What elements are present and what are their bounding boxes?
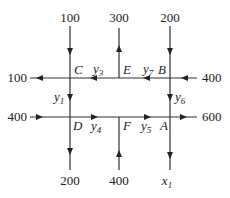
arrow-up-icon (116, 150, 122, 157)
flow-top-middle: 300 (109, 10, 129, 25)
arrow-left-icon (181, 75, 188, 81)
flow-left-top: 100 (8, 70, 28, 85)
node-c: C (74, 62, 83, 77)
arrow-right-icon (180, 114, 187, 120)
node-d: D (72, 118, 83, 133)
flow-y6: y6 (173, 89, 186, 106)
arrow-down-icon (67, 148, 73, 155)
flow-left-bottom: 400 (8, 109, 28, 124)
flow-y4: y4 (89, 118, 102, 135)
arrow-down-icon (167, 94, 173, 101)
flow-y1: y1 (52, 89, 64, 106)
flow-y7: y7 (141, 61, 154, 78)
arrow-down-icon (167, 48, 173, 55)
node-f: F (122, 118, 132, 133)
flow-network-diagram: 100 300 200 100 400 400 600 200 400 x1 C… (0, 0, 230, 198)
arrow-left-icon (36, 75, 43, 81)
flow-top-left: 100 (60, 10, 80, 25)
node-b: B (158, 62, 166, 77)
flow-bottom-left: 200 (60, 173, 80, 188)
flow-top-right: 200 (160, 10, 180, 25)
arrow-down-icon (67, 48, 73, 55)
arrow-right-icon (36, 114, 43, 120)
node-e: E (122, 62, 131, 77)
flow-bottom-middle: 400 (109, 173, 129, 188)
flow-right-bottom: 600 (202, 109, 222, 124)
flow-y5: y5 (139, 118, 152, 135)
arrow-down-icon (167, 152, 173, 159)
arrow-up-icon (116, 45, 122, 52)
node-a: A (159, 118, 168, 133)
flow-bottom-right-x1: x1 (161, 173, 172, 190)
flow-right-top: 400 (202, 70, 222, 85)
arrow-down-icon (67, 94, 73, 101)
flow-y3: y3 (91, 61, 104, 78)
